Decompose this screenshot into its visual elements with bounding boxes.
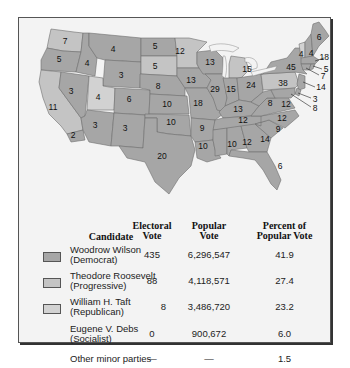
state-colorado xyxy=(114,88,150,115)
leader-maryland xyxy=(291,94,311,107)
svg-text:4: 4 xyxy=(309,48,314,58)
leader-rhode-island xyxy=(313,66,322,69)
svg-text:3: 3 xyxy=(93,120,98,130)
state-south-dakota xyxy=(141,56,177,76)
electoral-vote: 435 xyxy=(132,250,172,260)
legend-swatch-democrat xyxy=(43,252,61,262)
svg-text:5: 5 xyxy=(153,61,158,71)
svg-text:7: 7 xyxy=(63,36,68,46)
svg-text:9: 9 xyxy=(276,124,281,134)
svg-text:10: 10 xyxy=(198,141,208,151)
svg-text:4: 4 xyxy=(96,92,101,102)
header-electoral-line2: Vote xyxy=(132,231,172,241)
svg-text:18: 18 xyxy=(193,98,203,108)
svg-text:3: 3 xyxy=(119,70,124,80)
electoral-vote: 8 xyxy=(132,302,166,312)
svg-text:4: 4 xyxy=(299,49,304,59)
svg-text:18: 18 xyxy=(320,52,330,62)
svg-text:12: 12 xyxy=(242,137,252,147)
percent-vote: 23.2 xyxy=(247,302,322,312)
candidate-party: (Republican) xyxy=(70,307,124,317)
state-mississippi xyxy=(213,128,227,156)
candidate-party: (Socialist) xyxy=(70,334,112,344)
svg-text:2: 2 xyxy=(71,130,76,140)
svg-text:4: 4 xyxy=(111,44,116,54)
leader-delaware xyxy=(298,93,311,98)
table-row-roosevelt: Theodore Roosevelt (Progressive) 88 4,11… xyxy=(19,271,330,297)
svg-text:14: 14 xyxy=(260,134,270,144)
state-new-mexico xyxy=(111,113,145,148)
candidate-party: (Democrat) xyxy=(70,255,118,265)
svg-text:6: 6 xyxy=(127,94,132,104)
svg-text:9: 9 xyxy=(200,123,205,133)
svg-text:20: 20 xyxy=(157,151,167,161)
electoral-vote: 88 xyxy=(132,276,172,286)
state-florida xyxy=(229,150,281,190)
svg-text:10: 10 xyxy=(166,117,176,127)
table-row-wilson: Woodrow Wilson (Democrat) 435 6,296,547 … xyxy=(19,245,330,271)
table-row-debs: Eugene V. Debs (Socialist) 0 900,672 6.0 xyxy=(19,324,330,350)
candidate-party: (Progressive) xyxy=(70,281,127,291)
svg-text:38: 38 xyxy=(278,78,288,88)
table-row-taft: William H. Taft (Republican) 8 3,486,720… xyxy=(19,297,330,323)
svg-text:12: 12 xyxy=(277,113,287,123)
electoral-vote: — xyxy=(132,354,172,364)
percent-vote: 1.5 xyxy=(247,354,322,364)
svg-text:15: 15 xyxy=(226,84,236,94)
svg-text:13: 13 xyxy=(233,104,243,114)
popular-vote: 900,672 xyxy=(174,329,244,339)
svg-text:13: 13 xyxy=(205,57,215,67)
svg-text:8: 8 xyxy=(156,81,161,91)
legend-swatch-progressive xyxy=(43,278,61,288)
electoral-map: 7 5 11 2 4 3 4 3 4 6 3 3 5 5 8 10 10 20 … xyxy=(19,18,330,208)
percent-vote: 41.9 xyxy=(247,250,322,260)
popular-vote: — xyxy=(174,354,244,364)
svg-text:45: 45 xyxy=(286,62,296,72)
us-map-svg: 7 5 11 2 4 3 4 3 4 6 3 3 5 5 8 10 10 20 … xyxy=(19,18,330,208)
svg-text:6: 6 xyxy=(317,32,322,42)
svg-text:4: 4 xyxy=(85,58,90,68)
svg-text:3: 3 xyxy=(69,86,74,96)
svg-text:12: 12 xyxy=(238,115,248,125)
state-maryland xyxy=(271,88,295,98)
svg-text:10: 10 xyxy=(227,139,237,149)
svg-text:5: 5 xyxy=(153,41,158,51)
state-new-jersey xyxy=(297,74,305,90)
percent-vote: 27.4 xyxy=(247,276,322,286)
svg-text:8: 8 xyxy=(268,98,273,108)
svg-text:10: 10 xyxy=(162,99,172,109)
legend-swatch-republican xyxy=(43,304,61,314)
svg-text:5: 5 xyxy=(57,54,62,64)
map-frame: 7 5 11 2 4 3 4 3 4 6 3 3 5 5 8 10 10 20 … xyxy=(18,17,331,343)
svg-text:14: 14 xyxy=(316,82,326,92)
state-north-dakota xyxy=(141,38,177,56)
svg-text:29: 29 xyxy=(210,84,220,94)
svg-text:11: 11 xyxy=(49,102,58,112)
svg-text:13: 13 xyxy=(186,75,196,85)
svg-text:7: 7 xyxy=(321,71,326,81)
header-percent-line2: Popular Vote xyxy=(247,231,322,241)
table-row-other: Other minor parties — — 1.5 xyxy=(19,351,330,368)
svg-text:24: 24 xyxy=(246,80,256,90)
svg-text:12: 12 xyxy=(281,99,291,109)
svg-text:15: 15 xyxy=(242,64,252,74)
popular-vote: 6,296,547 xyxy=(174,250,244,260)
svg-text:8: 8 xyxy=(313,103,318,113)
header-popular-line2: Vote xyxy=(174,231,244,241)
svg-text:12: 12 xyxy=(175,46,185,56)
electoral-vote: 0 xyxy=(132,329,172,339)
svg-text:3: 3 xyxy=(123,123,128,133)
svg-text:6: 6 xyxy=(278,161,283,171)
percent-vote: 6.0 xyxy=(247,329,322,339)
state-arizona xyxy=(81,110,114,146)
popular-vote: 3,486,720 xyxy=(174,302,244,312)
popular-vote: 4,118,571 xyxy=(174,276,244,286)
